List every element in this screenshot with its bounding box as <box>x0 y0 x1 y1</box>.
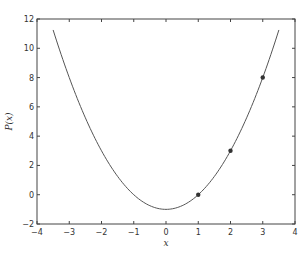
x-axis-label: x <box>163 238 168 248</box>
x-tick-label: 4 <box>292 228 297 237</box>
y-tick-label: 2 <box>29 161 34 170</box>
y-tick-label: −2 <box>22 220 34 229</box>
x-tick-label: 2 <box>228 228 233 237</box>
data-point <box>228 149 232 153</box>
x-tick-label: −4 <box>31 228 43 237</box>
y-tick-label: 10 <box>24 44 34 53</box>
x-tick-label: −3 <box>63 228 75 237</box>
y-tick-label: 0 <box>29 191 34 200</box>
y-tick-label: 12 <box>24 15 34 24</box>
y-tick-label: 4 <box>29 132 34 141</box>
plot-frame <box>37 19 295 224</box>
x-tick-label: −2 <box>96 228 108 237</box>
data-point <box>196 193 200 197</box>
data-point <box>261 75 265 79</box>
x-tick-label: 3 <box>260 228 265 237</box>
x-tick-label: −1 <box>128 228 140 237</box>
curve-line <box>53 30 279 209</box>
x-tick-label: 1 <box>196 228 201 237</box>
x-tick-label: 0 <box>163 228 168 237</box>
y-axis-label: P(x) <box>4 112 14 132</box>
y-tick-label: 8 <box>29 74 34 83</box>
chart: −4−3−2−101234−2024681012xP(x) <box>0 0 308 257</box>
y-tick-label: 6 <box>29 103 34 112</box>
